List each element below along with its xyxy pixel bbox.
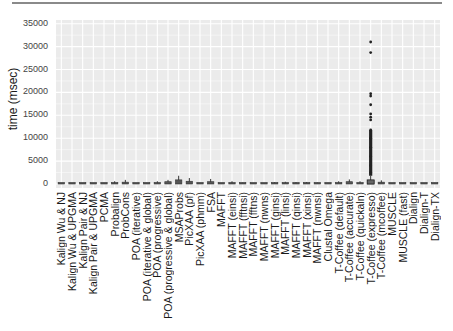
y-tick-label: 0 [8,178,48,188]
box-3 [90,183,96,185]
box-7 [133,183,139,185]
box-6 [122,180,128,184]
box-30 [378,180,384,184]
x-tick-label: PicXAA (pf) [184,192,194,246]
box-16 [229,181,235,184]
x-tick-label: MUSCLE [387,192,397,236]
x-tick-label: MAFFT (nwnsi) [312,192,322,264]
box-13 [197,183,203,185]
box-26 [335,181,341,184]
box-32 [399,183,405,185]
x-tick-label: Dialign [408,192,418,224]
box-22 [293,182,299,184]
x-tick-label: PicXAA (phmm) [195,192,205,266]
y-tick-label: 25000 [8,64,48,74]
y-tick-label: 10000 [8,132,48,142]
box-23 [303,182,309,184]
x-tick-label: ProbCons [120,192,130,239]
x-tick-label: Kalign Wu & NJ [56,192,66,265]
y-tick-label: 30000 [8,41,48,51]
x-tick-label: PCMA [99,192,109,222]
boxplot-canvas [56,20,440,188]
box-2 [79,183,85,185]
box-20 [271,182,277,184]
box-24 [314,183,320,185]
x-tick-label: T-Coffee (mcoffee) [376,192,386,279]
box-34 [421,183,427,185]
box-1 [69,183,75,185]
x-tick-label: MAFFT (qinsi) [291,192,301,258]
x-tick-label: POA (progressive) [152,192,162,278]
box-17 [239,183,245,185]
box-18 [250,183,256,185]
x-tick-label: MAFFT (nwns) [259,192,269,261]
x-tick-label: Clustal Omega [323,192,333,261]
x-tick-label: MAFFT (linsi) [280,192,290,255]
box-14 [207,179,213,184]
box-8 [143,183,149,185]
box-15 [218,183,224,185]
x-tick-label: MAFFT (fftns) [248,192,258,256]
box-4 [101,183,107,185]
x-tick-label: T-Coffee (accurate) [344,192,354,282]
box-5 [111,181,117,184]
box-35 [431,183,437,185]
box-11 [175,176,181,184]
box-21 [282,182,288,184]
box-27 [346,179,352,184]
box-9 [154,181,160,184]
box-19 [261,183,267,185]
y-tick-label: 15000 [8,109,48,119]
box-25 [325,183,331,185]
x-tick-label: T-Coffee (quickaln) [355,192,365,281]
y-tick-label: 5000 [8,155,48,165]
box-31 [389,183,395,185]
top-divider [12,2,442,4]
x-tick-label: Kalign Wu & UPGMA [67,192,77,291]
x-tick-label: MAFFT (einsi) [227,192,237,258]
x-tick-label: Dialign-TX [430,192,440,241]
box-33 [410,183,416,185]
y-tick-label: 35000 [8,18,48,28]
y-tick-label: 20000 [8,86,48,96]
box-28 [357,181,363,184]
x-tick-label: Dialign-T [419,192,429,234]
plot-area [56,20,440,188]
box-0 [58,183,64,185]
x-tick-label: POA (progressive & global) [163,192,173,319]
x-tick-label: POA (iterative) [131,192,141,260]
x-tick-label: Kalign Pair & UPGMA [88,192,98,294]
box-12 [186,178,192,184]
box-10 [165,180,171,184]
x-tick-label: MAFFT [216,192,226,227]
x-axis-labels: Kalign Wu & NJKalign Wu & UPGMAKalign Pa… [56,192,440,331]
